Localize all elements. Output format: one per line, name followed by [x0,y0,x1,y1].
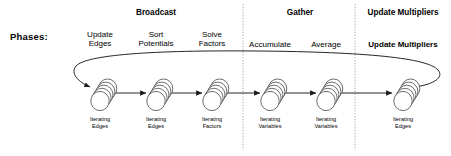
stack-caption-average: IteratingVariables [315,116,338,131]
phase-name-sort-potentials: Sort Potentials [138,31,173,49]
phase-line-1: Solve [202,30,222,39]
stack-disc [147,91,165,110]
caption-line-1: Iterating [316,116,336,122]
feedback-loop-arrow [74,51,440,88]
stack-disc [394,91,412,110]
diagram-vector-layer [0,0,451,156]
caption-line-1: Iterating [90,116,110,122]
diagram-canvas: Broadcast Gather Update Multipliers Phas… [0,0,451,156]
iteration-stack-average [317,79,343,111]
stack-disc [203,91,221,110]
caption-line-1: Iterating [146,116,166,122]
iteration-stack-sort-potentials [147,79,173,111]
phases-row-label: Phases: [10,32,48,43]
stack-disc [261,91,279,110]
iteration-stack-update-edges [91,79,117,111]
caption-line-2: Edges [395,123,411,129]
iteration-stacks [91,79,420,111]
phase-line-1: Sort [149,30,164,39]
stack-caption-solve-factors: IteratingFactors [202,116,222,131]
phase-name-solve-factors: Solve Factors [199,31,226,49]
caption-line-2: Variables [315,123,338,129]
phase-name-accumulate: Accumulate [249,41,291,50]
caption-line-1: Iterating [393,116,413,122]
caption-line-1: Iterating [202,116,222,122]
stack-caption-sort-potentials: IteratingEdges [146,116,166,131]
phase-line-2: Edges [89,39,112,48]
phase-name-update-edges: Update Edges [87,31,113,49]
iteration-stack-accumulate [261,79,287,111]
phase-name-update-multipliers: Update Multipliers [368,41,437,50]
caption-line-2: Variables [259,123,282,129]
stack-disc [317,91,335,110]
caption-line-2: Edges [148,123,164,129]
phase-line-1: Update [87,30,113,39]
caption-line-2: Factors [203,123,222,129]
iteration-stack-solve-factors [203,79,229,111]
caption-line-2: Edges [92,123,108,129]
stack-disc [91,91,109,110]
phase-name-average: Average [311,41,341,50]
phase-line-2: Factors [199,39,226,48]
group-title-gather: Gather [287,8,313,17]
stack-caption-accumulate: IteratingVariables [259,116,282,131]
group-title-broadcast: Broadcast [136,8,176,17]
caption-line-1: Iterating [260,116,280,122]
stack-caption-update-edges: IteratingEdges [90,116,110,131]
phase-line-2: Potentials [138,39,173,48]
iteration-stack-update-multipliers [394,79,420,111]
stack-caption-update-multipliers: IteratingEdges [393,116,413,131]
group-title-update-multipliers: Update Multipliers [368,8,439,17]
